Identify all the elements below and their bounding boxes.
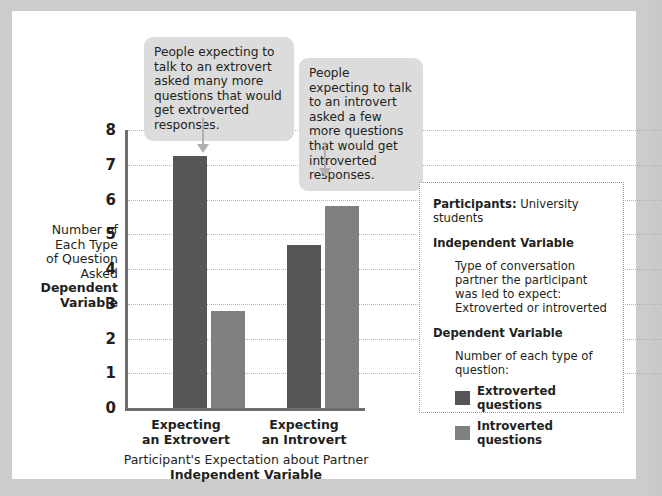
y-axis-title-line-3: of Question [40,252,118,267]
bar-introverted-expecting-extrovert [211,311,245,408]
ytick-label-0: 0 [106,401,116,416]
x-axis-title-text: Participant's Expectation about Partner [96,452,396,467]
chart-page: 8 7 6 5 4 3 2 1 0 Number of Each [12,11,636,479]
x-axis-category-expecting-introvert: Expecting an Introvert [244,417,364,447]
independent-variable-text: Type of conversation partner the partici… [455,259,610,315]
x-axis-category-1-line-2: an Introvert [244,432,364,447]
dependent-variable-title: Dependent Variable [433,326,610,340]
x-axis-category-0-line-1: Expecting [126,417,246,432]
y-axis-variable-label-line-2: Variable [40,296,118,311]
x-axis-line [125,408,365,411]
y-axis-line [125,130,128,411]
bar-introverted-expecting-introvert [325,206,359,408]
ytick-label-1: 1 [106,366,116,381]
x-axis-category-1-line-1: Expecting [244,417,364,432]
legend-item-extroverted: Extroverted questions [455,384,610,412]
independent-variable-title: Independent Variable [433,236,610,250]
callout-extrovert-arrow-icon [197,144,209,153]
y-axis-variable-label-line-1: Dependent [40,281,118,296]
ytick-label-8: 8 [106,123,116,138]
dependent-variable-text: Number of each type of question: [455,349,610,377]
ytick-label-2: 2 [106,331,116,346]
callout-introvert-arrow-icon [319,168,331,177]
bar-extroverted-expecting-extrovert [173,156,207,408]
study-info-box: Participants: University students Indepe… [419,182,624,413]
x-axis-variable-label: Independent Variable [96,467,396,482]
callout-introvert: People expecting to talk to an introvert… [299,58,423,191]
legend-label-extroverted: Extroverted questions [477,384,610,412]
callout-introvert-pointer-line [324,142,326,171]
legend-item-introverted: Introverted questions [455,419,610,447]
legend-swatch-introverted-icon [455,426,470,440]
callout-extrovert-pointer-line [202,118,204,146]
ytick-label-7: 7 [106,157,116,172]
bar-extroverted-expecting-introvert [287,245,321,408]
legend-swatch-extroverted-icon [455,391,470,405]
y-axis-title-line-1: Number of [40,223,118,238]
callout-extrovert: People expecting to talk to an extrovert… [144,37,294,141]
participants-row: Participants: University students [433,197,610,225]
participants-label: Participants: [433,197,517,211]
x-axis-category-expecting-extrovert: Expecting an Extrovert [126,417,246,447]
x-axis-category-0-line-2: an Extrovert [126,432,246,447]
y-axis-title-line-2: Each Type [40,238,118,253]
y-axis-title: Number of Each Type of Question Asked De… [40,223,118,310]
legend-label-introverted: Introverted questions [477,419,610,447]
y-axis-title-line-4: Asked [40,267,118,282]
x-axis-title: Participant's Expectation about Partner … [96,452,396,482]
ytick-label-6: 6 [106,192,116,207]
